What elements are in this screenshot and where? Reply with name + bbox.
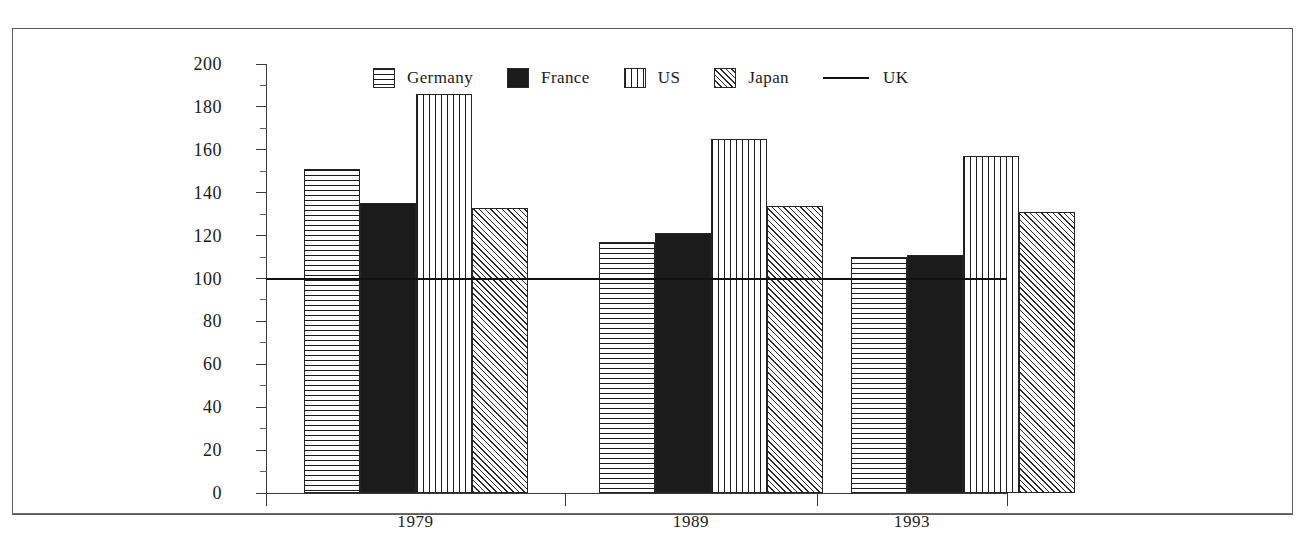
y-tick-major xyxy=(256,235,267,236)
x-tick xyxy=(266,493,267,506)
y-tick-minor xyxy=(260,214,267,215)
y-tick-minor xyxy=(260,299,267,300)
figure-frame: Germany France US Japan UK 0204060801001… xyxy=(12,28,1293,515)
y-tick-label: 140 xyxy=(162,184,222,202)
y-tick-label: 60 xyxy=(162,355,222,373)
y-tick-minor xyxy=(260,257,267,258)
y-tick-label: 200 xyxy=(162,55,222,73)
y-tick-minor xyxy=(260,128,267,129)
y-tick-label: 120 xyxy=(162,227,222,245)
x-tick xyxy=(565,493,566,506)
y-tick-minor xyxy=(260,471,267,472)
bar-germany-1993 xyxy=(851,257,907,493)
y-tick-label: 180 xyxy=(162,98,222,116)
y-tick-label: 0 xyxy=(162,484,222,502)
plot-area: 020406080100120140160180200 197919891993 xyxy=(13,29,1294,516)
bar-japan-1993 xyxy=(1019,212,1075,493)
bar-us-1993 xyxy=(963,156,1019,493)
y-tick-minor xyxy=(260,385,267,386)
x-tick xyxy=(1007,493,1008,506)
bar-germany-1979 xyxy=(304,169,360,493)
bar-france-1979 xyxy=(360,203,416,493)
bar-germany-1989 xyxy=(599,242,655,493)
y-tick-label: 160 xyxy=(162,141,222,159)
y-tick-major xyxy=(256,149,267,150)
y-tick-major xyxy=(256,364,267,365)
y-tick-minor xyxy=(260,342,267,343)
bar-france-1993 xyxy=(907,255,963,493)
x-group-label-1993: 1993 xyxy=(822,512,1002,532)
x-group-label-1989: 1989 xyxy=(601,512,781,532)
y-tick-major xyxy=(256,106,267,107)
x-axis-line xyxy=(266,493,1007,494)
y-tick-minor xyxy=(260,428,267,429)
x-group-label-1979: 1979 xyxy=(326,512,506,532)
bar-us-1989 xyxy=(711,139,767,493)
y-tick-major xyxy=(256,321,267,322)
y-tick-label: 100 xyxy=(162,270,222,288)
bar-japan-1979 xyxy=(472,208,528,493)
bar-us-1979 xyxy=(416,94,472,493)
y-tick-label: 40 xyxy=(162,398,222,416)
y-tick-label: 80 xyxy=(162,312,222,330)
y-tick-major xyxy=(256,64,267,65)
uk-reference-line xyxy=(266,278,1007,280)
y-tick-major xyxy=(256,450,267,451)
bar-france-1989 xyxy=(655,233,711,493)
page-divider-rule xyxy=(12,513,1293,514)
y-tick-minor xyxy=(260,171,267,172)
bar-japan-1989 xyxy=(767,206,823,493)
y-tick-major xyxy=(256,407,267,408)
y-tick-major xyxy=(256,192,267,193)
x-tick xyxy=(817,493,818,506)
y-tick-label: 20 xyxy=(162,441,222,459)
y-tick-minor xyxy=(260,85,267,86)
